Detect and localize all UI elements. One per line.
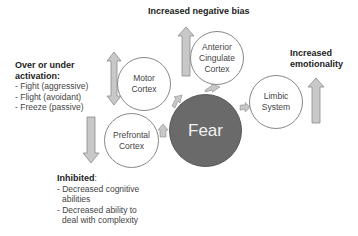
acc-line-2: Cingulate xyxy=(199,53,235,64)
limbic-line-1: Limbic xyxy=(264,91,289,102)
motor-cortex-node: Motor Cortex xyxy=(117,57,171,111)
activation-block: Over or under activation: - Fight (aggre… xyxy=(15,60,88,113)
fear-label: Fear xyxy=(188,121,223,141)
acc-line-1: Anterior xyxy=(202,42,232,53)
inhibited-item-cognitive-cont: abilities xyxy=(57,194,139,205)
motor-line-2: Cortex xyxy=(131,84,156,95)
limbic-up-arrow xyxy=(308,78,324,123)
activation-item-fight: - Fight (aggressive) xyxy=(15,81,88,92)
prefrontal-line-1: Prefrontal xyxy=(113,130,150,141)
prefrontal-down-arrow xyxy=(83,117,99,163)
prefrontal-line-2: Cortex xyxy=(119,141,144,152)
inhibited-item-cognitive: - Decreased cognitive xyxy=(57,184,139,195)
limbic-system-node: Limbic System xyxy=(249,75,303,129)
increased-emotionality-label: Increased emotionality xyxy=(290,48,343,69)
fear-to-prefrontal-arrow xyxy=(158,124,168,137)
emotionality-line-2: emotionality xyxy=(290,59,343,70)
inhibited-colon: : xyxy=(95,173,97,183)
activation-heading-1: Over or under xyxy=(15,60,88,71)
activation-heading-2: activation: xyxy=(15,71,88,82)
inhibited-heading: Inhibited xyxy=(57,173,95,183)
activation-item-freeze: - Freeze (passive) xyxy=(15,102,88,113)
increased-negative-bias-label: Increased negative bias xyxy=(148,6,250,16)
activation-item-flight: - Flight (avoidant) xyxy=(15,92,88,103)
limbic-line-2: System xyxy=(262,102,290,113)
fear-node: Fear xyxy=(169,94,242,167)
inhibited-block: Inhibited: - Decreased cognitive abiliti… xyxy=(57,173,139,226)
emotionality-line-1: Increased xyxy=(290,48,343,59)
inhibited-item-complexity-cont: deal with complexity xyxy=(57,215,139,226)
acc-line-3: Cortex xyxy=(204,64,229,75)
motor-line-1: Motor xyxy=(133,73,155,84)
prefrontal-cortex-node: Prefrontal Cortex xyxy=(104,113,159,168)
anterior-cingulate-cortex-node: Anterior Cingulate Cortex xyxy=(190,31,244,85)
inhibited-item-complexity: - Decreased ability to xyxy=(57,205,139,216)
